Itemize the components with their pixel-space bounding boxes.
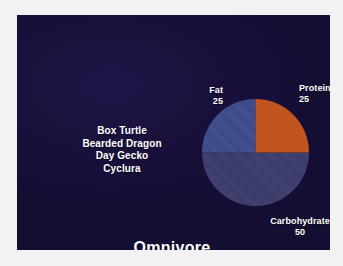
pie-label-protein-name: Protein: [299, 83, 330, 94]
slide-frame: Box Turtle Bearded Dragon Day Gecko Cycl…: [0, 0, 343, 266]
species-item: Day Gecko: [49, 150, 195, 163]
pie-label-carbohydrate-value: 50: [245, 227, 330, 238]
pie-label-protein-value: 25: [299, 94, 330, 105]
pie-label-fat-value: 25: [167, 96, 223, 107]
slide-title: Omnivore: [37, 239, 307, 250]
species-item: Cyclura: [49, 163, 195, 176]
species-item: Bearded Dragon: [49, 138, 195, 151]
slide-panel: Box Turtle Bearded Dragon Day Gecko Cycl…: [17, 15, 330, 250]
pie-label-protein: Protein 25: [299, 83, 330, 105]
species-list: Box Turtle Bearded Dragon Day Gecko Cycl…: [49, 125, 195, 175]
pie-label-carbohydrate-name: Carbohydrate: [245, 216, 330, 227]
species-item: Box Turtle: [49, 125, 195, 138]
pie-label-fat: Fat 25: [167, 85, 223, 107]
pie-label-carbohydrate: Carbohydrate 50: [245, 216, 330, 238]
pie-chart: [202, 99, 309, 206]
pie-label-fat-name: Fat: [167, 85, 223, 96]
